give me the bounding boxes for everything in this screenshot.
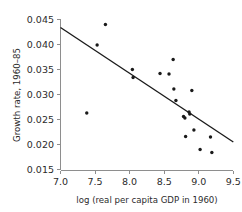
data-point — [183, 116, 186, 119]
x-tick-label: 7.5 — [88, 176, 103, 187]
y-axis-title: Growth rate, 1960–85 — [12, 48, 22, 142]
y-tick-label: 0.015 — [27, 164, 54, 175]
y-tick-label: 0.040 — [27, 39, 54, 50]
x-tick-label: 8.0 — [122, 176, 137, 187]
data-point — [172, 87, 175, 90]
x-tick-labels: 7.0 7.5 8.0 8.5 9.0 9.5 — [53, 176, 241, 187]
chart-canvas: 0.045 0.040 0.035 0.030 0.025 0.020 0.01… — [0, 0, 242, 212]
data-point — [171, 58, 174, 61]
data-point — [95, 43, 98, 46]
data-point — [198, 148, 201, 151]
y-tick-label: 0.035 — [27, 64, 54, 75]
y-tick-label: 0.025 — [27, 114, 54, 125]
data-point — [209, 135, 212, 138]
data-points-layer — [85, 23, 214, 154]
x-tick-label: 8.5 — [157, 176, 172, 187]
data-point — [104, 23, 107, 26]
data-point — [174, 99, 177, 102]
x-axis-title: log (real per capita GDP in 1960) — [76, 195, 217, 205]
data-point — [85, 111, 88, 114]
data-point — [167, 72, 170, 75]
data-point — [131, 76, 134, 79]
data-point — [190, 89, 193, 92]
x-tick-label: 9.0 — [191, 176, 206, 187]
data-point — [210, 151, 213, 154]
y-tick-label: 0.030 — [27, 89, 54, 100]
axes-group — [61, 19, 234, 171]
x-tick-label: 9.5 — [226, 176, 241, 187]
scatter-plot-figure: 0.045 0.040 0.035 0.030 0.025 0.020 0.01… — [0, 0, 242, 212]
x-tick-label: 7.0 — [53, 176, 68, 187]
data-point — [158, 72, 161, 75]
data-point — [131, 68, 134, 71]
data-point — [188, 112, 191, 115]
y-tick-label: 0.045 — [27, 14, 54, 25]
y-tick-labels: 0.045 0.040 0.035 0.030 0.025 0.020 0.01… — [27, 14, 54, 175]
regression-trendline — [61, 28, 234, 143]
data-point — [192, 128, 195, 131]
x-tick-marks — [61, 171, 234, 175]
data-point — [184, 135, 187, 138]
y-tick-marks — [57, 20, 61, 170]
y-tick-label: 0.020 — [27, 139, 54, 150]
